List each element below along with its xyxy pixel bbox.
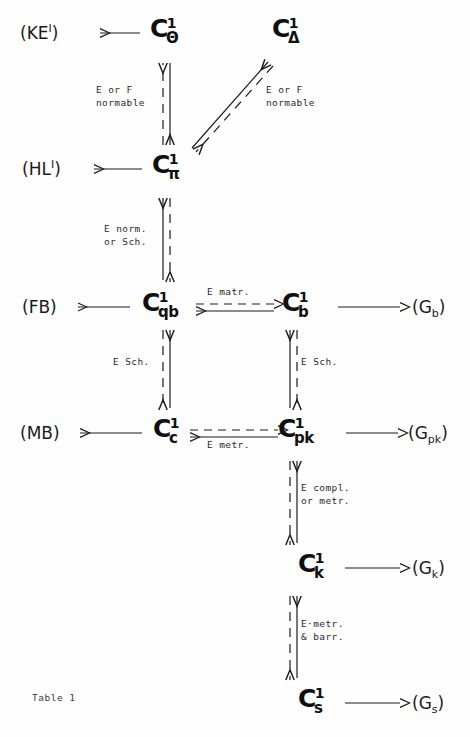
side-label-ke: (KEI) [20, 25, 58, 42]
edge-label-k-s-line1: E·metr. [301, 617, 344, 630]
edge-label-theta-pi: E or F normable [96, 83, 145, 109]
side-label-gpk: (Gpk) [408, 425, 448, 442]
edge-label-delta-pi: E or F normable [266, 83, 315, 109]
edge-label-theta-pi-line2: normable [96, 96, 145, 109]
arrow-delta-pi [192, 62, 273, 152]
node-c-delta[interactable]: C1Δ [272, 16, 299, 41]
side-label-gs-tail: ) [438, 693, 445, 713]
edge-label-qb-c-line1: E Sch. [113, 355, 150, 368]
figure-caption: Table 1 [32, 692, 76, 703]
node-c-b-sub: b [298, 303, 308, 321]
edge-label-k-s: E·metr. & barr. [301, 617, 344, 643]
figure-canvas: C1Θ C1Δ C1π C1qb C1b C1c C1pk C1k C1s (K… [0, 0, 470, 737]
node-c-qb[interactable]: C1qb [142, 290, 179, 315]
side-label-mb: (MB) [20, 425, 60, 442]
side-label-fb: (FB) [22, 299, 57, 316]
side-label-ke-text: (KE [20, 23, 49, 43]
edge-label-b-pk: E Sch. [301, 355, 338, 368]
node-c-pk[interactable]: C1pk [278, 416, 314, 441]
side-label-gb-text: (G [412, 297, 432, 317]
side-label-mb-text: (MB) [20, 423, 60, 443]
arrow-k-s [290, 596, 297, 680]
edge-label-c-pk-line1: E metr. [207, 438, 250, 451]
side-label-gpk-tail: ) [441, 423, 448, 443]
node-c-c-sub: c [169, 429, 177, 447]
node-c-pi-sub: π [168, 165, 179, 183]
edge-label-k-s-line2: & barr. [301, 630, 344, 643]
side-label-ke-tail: ) [52, 23, 59, 43]
edge-label-pk-k: E compl. or metr. [301, 481, 350, 507]
node-c-qb-sub: qb [158, 303, 178, 321]
node-c-k-sub: k [314, 564, 323, 582]
side-label-gk-text: (G [412, 558, 432, 578]
node-c-theta-sub: Θ [166, 29, 178, 47]
edge-label-theta-pi-line1: E or F [96, 83, 145, 96]
side-label-gk-tail: ) [438, 558, 445, 578]
edge-label-pi-qb: E norm. or Sch. [104, 222, 147, 248]
node-c-s[interactable]: C1s [298, 686, 323, 711]
node-c-delta-sub: Δ [288, 29, 299, 47]
arrow-b-pk [290, 330, 297, 410]
arrow-pi-qb [163, 198, 170, 282]
side-label-gb-sub: b [432, 307, 439, 320]
edge-label-pk-k-line1: E compl. [301, 481, 350, 494]
side-label-gk: (Gk) [412, 560, 445, 577]
edge-label-qb-b: E matr. [207, 285, 250, 298]
edge-label-pi-qb-line2: or Sch. [104, 235, 147, 248]
edge-label-delta-pi-line2: normable [266, 96, 315, 109]
edge-label-qb-b-line1: E matr. [207, 285, 250, 298]
side-label-gs: (Gs) [412, 695, 444, 712]
side-label-gs-text: (G [412, 693, 432, 713]
arrow-qb-c [163, 330, 170, 410]
edge-label-c-pk: E metr. [207, 438, 250, 451]
edge-label-qb-c: E Sch. [113, 355, 150, 368]
arrow-c-pk [190, 430, 278, 437]
node-c-s-sub: s [314, 699, 322, 717]
edge-label-pi-qb-line1: E norm. [104, 222, 147, 235]
node-c-b[interactable]: C1b [282, 290, 308, 315]
side-label-hl-text: (HL [22, 159, 51, 179]
node-c-c[interactable]: C1c [153, 416, 178, 441]
edge-label-pk-k-line2: or metr. [301, 494, 350, 507]
side-label-gpk-sub: pk [428, 433, 441, 446]
node-c-pi[interactable]: C1π [152, 152, 179, 177]
edge-label-delta-pi-line1: E or F [266, 83, 315, 96]
side-label-gb: (Gb) [412, 299, 445, 316]
side-label-fb-text: (FB) [22, 297, 57, 317]
node-c-pk-sub: pk [294, 429, 314, 447]
arrow-layer [0, 0, 470, 737]
edge-label-b-pk-line1: E Sch. [301, 355, 338, 368]
arrow-pk-k [290, 461, 297, 545]
side-label-hl-tail: ) [54, 159, 61, 179]
node-c-k[interactable]: C1k [298, 551, 324, 576]
side-label-hl: (HLI) [22, 161, 61, 178]
side-label-gb-tail: ) [439, 297, 446, 317]
side-label-gpk-text: (G [408, 423, 428, 443]
arrow-theta-pi [163, 63, 170, 145]
arrow-qb-b [196, 304, 274, 311]
node-c-theta[interactable]: C1Θ [150, 16, 178, 41]
